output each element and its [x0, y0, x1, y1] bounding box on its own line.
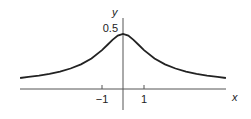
x-tick-label: 1: [141, 93, 147, 105]
x-tick-label: −1: [96, 93, 109, 105]
x-axis-label: x: [231, 91, 238, 103]
chart: x y −11 0.5: [0, 0, 251, 119]
y-axis-label: y: [111, 6, 119, 18]
y-tick-label: 0.5: [103, 22, 118, 34]
